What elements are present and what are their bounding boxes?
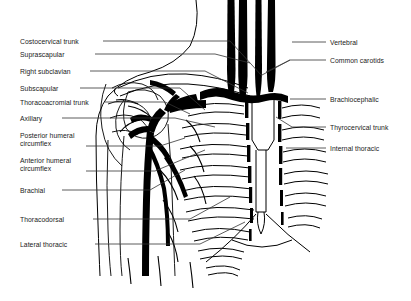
leader-thoracoacromial-trunk <box>105 102 190 114</box>
label-posterior-humeral-circumflex: Posterior humeral circumflex <box>20 132 75 148</box>
leader-lateral-thoracic <box>95 222 245 244</box>
leader-axillary <box>62 118 215 127</box>
label-thoracoacromial-trunk: Thoracoacromial trunk <box>20 99 89 107</box>
leader-common-carotids <box>262 60 326 75</box>
label-thyrocervical-trunk: Thyrocervical trunk <box>330 124 388 132</box>
label-vertebral: Vertebral <box>330 39 358 47</box>
leader-suprascapular <box>95 54 250 63</box>
leader-thyrocervical-trunk <box>276 117 326 127</box>
label-costocervical-trunk: Costocervical trunk <box>20 38 79 46</box>
label-lateral-thoracic: Lateral thoracic <box>20 241 67 249</box>
leader-thoracodorsal <box>93 197 230 219</box>
label-internal-thoracic: Internal thoracic <box>330 145 379 153</box>
leader-anterior-humeral <box>86 150 205 171</box>
label-brachiocephalic: Brachiocephalic <box>330 96 379 104</box>
leader-posterior-humeral <box>86 138 185 146</box>
leader-right-subclavian <box>90 71 248 93</box>
label-suprascapular: Suprascapular <box>20 51 64 59</box>
label-brachial: Brachial <box>20 187 45 195</box>
label-subscapular: Subscapular <box>20 85 58 93</box>
label-anterior-humeral-circumflex: Anterior humeral circumflex <box>20 157 71 173</box>
leader-common-carotids-2 <box>266 60 290 72</box>
leader-lines-right <box>262 42 326 148</box>
label-axillary: Axillary <box>20 115 42 123</box>
leader-lines-left <box>62 41 262 244</box>
label-right-subclavian: Right subclavian <box>20 68 71 76</box>
label-common-carotids: Common carotids <box>330 57 384 65</box>
leader-subscapular <box>80 88 205 110</box>
anatomy-figure: Costocervical trunk Suprascapular Right … <box>0 0 411 301</box>
label-thoracodorsal: Thoracodorsal <box>20 216 64 224</box>
leader-brachial <box>62 170 185 190</box>
